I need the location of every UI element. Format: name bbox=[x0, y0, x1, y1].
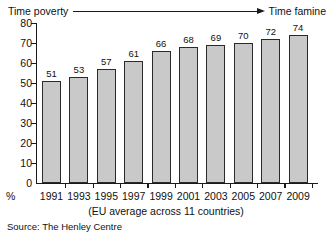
x-axis-category-label: 1993 bbox=[65, 190, 93, 202]
right-arrow-icon bbox=[73, 6, 264, 16]
x-axis-category-label: 2005 bbox=[229, 190, 257, 202]
x-axis-tick bbox=[230, 184, 231, 188]
x-axis-tick bbox=[65, 184, 66, 188]
y-axis-unit-label: % bbox=[6, 190, 15, 202]
x-axis-category-label: 2003 bbox=[202, 190, 230, 202]
x-axis-tick bbox=[284, 184, 285, 188]
x-axis-category-label: 1995 bbox=[92, 190, 120, 202]
arrow-shaft bbox=[73, 11, 257, 12]
x-axis-category-labels: 1991199319951997199920012003200520072009 bbox=[0, 190, 332, 204]
x-axis-tick bbox=[93, 184, 94, 188]
header-left-label: Time poverty bbox=[0, 5, 68, 17]
x-axis-category-label: 2009 bbox=[284, 190, 312, 202]
x-axis-tick-marks bbox=[0, 20, 332, 190]
x-axis-category-label: 1991 bbox=[38, 190, 66, 202]
x-axis-tick bbox=[175, 184, 176, 188]
x-axis-tick bbox=[257, 184, 258, 188]
trend-arrow-header: Time poverty Time famine bbox=[0, 4, 332, 18]
header-right-label: Time famine bbox=[269, 5, 332, 17]
source-note: Source: The Henley Centre bbox=[7, 221, 122, 233]
x-axis-category-label: 2007 bbox=[257, 190, 285, 202]
x-axis-category-label: 1997 bbox=[120, 190, 148, 202]
x-axis-tick bbox=[120, 184, 121, 188]
x-axis-tick bbox=[202, 184, 203, 188]
x-axis-category-label: 2001 bbox=[175, 190, 203, 202]
x-axis-tick bbox=[147, 184, 148, 188]
x-axis-category-label: 1999 bbox=[147, 190, 175, 202]
chart-caption: (EU average across 11 countries) bbox=[0, 205, 332, 218]
arrow-head bbox=[257, 8, 265, 14]
x-axis-tick bbox=[312, 184, 313, 188]
bar-chart-plot-area: 01020304050607080 51535761666869707274 bbox=[0, 20, 332, 190]
